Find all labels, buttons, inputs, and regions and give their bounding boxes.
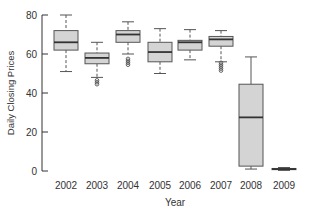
y-tick-label: 20 bbox=[26, 127, 38, 138]
y-tick-label: 40 bbox=[26, 88, 38, 99]
y-tick-label: 80 bbox=[26, 10, 38, 21]
x-tick-label: 2007 bbox=[210, 180, 233, 191]
box-2005 bbox=[148, 29, 172, 74]
box-2007 bbox=[209, 31, 233, 73]
box-2002 bbox=[54, 15, 78, 72]
box-2009 bbox=[272, 167, 296, 170]
x-tick-label: 2003 bbox=[86, 180, 109, 191]
boxes bbox=[54, 15, 296, 170]
y-tick-label: 60 bbox=[26, 49, 38, 60]
y-tick-label: 0 bbox=[31, 166, 37, 177]
x-tick-label: 2002 bbox=[55, 180, 78, 191]
x-tick-label: 2006 bbox=[179, 180, 202, 191]
x-tick-label: 2005 bbox=[149, 180, 172, 191]
x-axis-label: Year bbox=[165, 197, 186, 208]
x-tick-label: 2008 bbox=[240, 180, 263, 191]
x-tick-label: 2009 bbox=[273, 180, 296, 191]
box-2004 bbox=[116, 22, 140, 67]
box-2003 bbox=[85, 42, 109, 86]
y-axis-label: Daily Closing Prices bbox=[5, 51, 16, 136]
box-2008 bbox=[239, 57, 263, 169]
box-2006 bbox=[178, 30, 202, 60]
x-tick-label: 2004 bbox=[117, 180, 140, 191]
box-plot-chart: 0204060802002200320042005200620072008200… bbox=[0, 0, 313, 222]
